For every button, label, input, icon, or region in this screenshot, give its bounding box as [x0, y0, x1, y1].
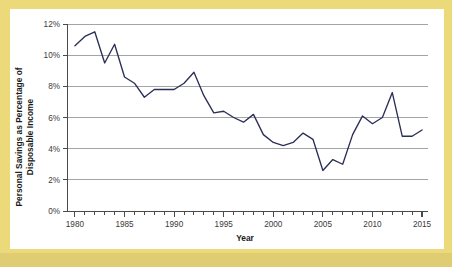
y-tick-label-0%: 0% [48, 207, 60, 216]
line-chart: 0%2%4%6%8%10%12% 19801985199019952000200… [10, 9, 444, 249]
x-tick-labels: 19801985199019952000200520102015 [66, 220, 432, 229]
x-tick-label-2015: 2015 [413, 220, 432, 229]
y-tick-label-8%: 8% [48, 82, 60, 91]
data-series-line [75, 32, 422, 171]
x-tick-label-1985: 1985 [115, 220, 134, 229]
gridlines [67, 24, 428, 180]
y-axis-title-line-2: Disposable Income [25, 98, 35, 175]
y-tick-label-10%: 10% [44, 51, 60, 60]
x-axis-title: Year [236, 233, 254, 243]
x-tick-label-1995: 1995 [215, 220, 234, 229]
y-tick-label-2%: 2% [48, 176, 60, 185]
y-tick-label-6%: 6% [48, 114, 60, 123]
x-tick-label-2005: 2005 [314, 220, 333, 229]
x-tick-label-2000: 2000 [264, 220, 283, 229]
x-tick-label-1980: 1980 [66, 220, 85, 229]
x-tick-label-1990: 1990 [165, 220, 184, 229]
y-tick-label-12%: 12% [44, 20, 60, 29]
y-axis [63, 24, 67, 211]
y-tick-label-4%: 4% [48, 145, 60, 154]
x-axis [67, 211, 428, 217]
figure-frame: 0%2%4%6%8%10%12% 19801985199019952000200… [0, 0, 452, 267]
y-axis-title: Personal Savings as Percentage of Dispos… [14, 67, 35, 206]
y-axis-title-line-1: Personal Savings as Percentage of [14, 67, 24, 206]
chart-card: 0%2%4%6%8%10%12% 19801985199019952000200… [10, 9, 444, 249]
y-tick-labels: 0%2%4%6%8%10%12% [44, 20, 60, 216]
x-tick-label-2010: 2010 [363, 220, 382, 229]
